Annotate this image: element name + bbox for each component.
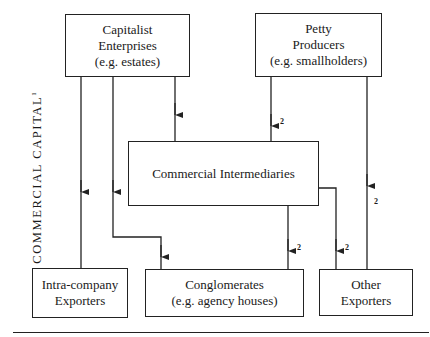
node-label: Producers: [293, 37, 345, 53]
node-capitalist-enterprises: Capitalist Enterprises (e.g. estates): [65, 14, 190, 77]
node-label: (e.g. smallholders): [270, 53, 367, 69]
node-commercial-intermediaries: Commercial Intermediaries: [128, 141, 319, 206]
bottom-rule: [13, 332, 429, 333]
node-label: Exporters: [55, 293, 106, 309]
node-label: (e.g. agency houses): [171, 293, 277, 309]
footnote-mark: 2: [345, 243, 349, 252]
node-label: Exporters: [341, 293, 392, 309]
node-other-exporters: Other Exporters: [319, 269, 413, 316]
node-label: Conglomerates: [185, 277, 264, 293]
node-conglomerates: Conglomerates (e.g. agency houses): [145, 269, 304, 317]
node-label: Petty: [305, 21, 332, 37]
footnote-mark: 2: [374, 197, 378, 206]
node-label: (e.g. estates): [95, 54, 160, 70]
node-label: Capitalist: [103, 22, 153, 38]
node-label: Intra-company: [42, 277, 119, 293]
footnote-mark: 2: [280, 117, 284, 126]
node-label: Commercial Intermediaries: [152, 166, 295, 182]
node-label: Other: [351, 277, 381, 293]
node-petty-producers: Petty Producers (e.g. smallholders): [255, 13, 382, 77]
footnote-mark: 2: [297, 243, 301, 252]
node-label: Enterprises: [98, 38, 156, 54]
node-intra-company-exporters: Intra-company Exporters: [32, 268, 128, 318]
